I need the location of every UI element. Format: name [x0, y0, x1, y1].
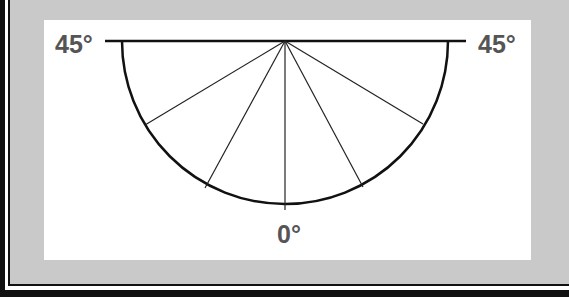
radial-line-4: [285, 41, 423, 124]
label-right-45: 45°: [478, 30, 516, 58]
label-left-45: 45°: [55, 30, 93, 58]
protractor-diagram: 45° 45° 0°: [0, 0, 569, 297]
radial-line-1: [205, 41, 285, 188]
radial-line-0: [145, 41, 285, 125]
label-bottom-0: 0°: [277, 220, 301, 248]
radial-line-3: [285, 41, 363, 187]
radial-lines: [145, 41, 423, 210]
